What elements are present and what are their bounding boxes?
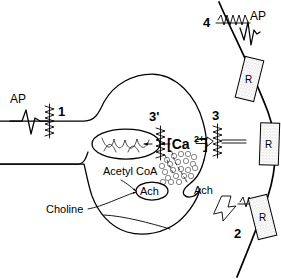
synapse-figure-svg: AP 1 4 AP 3' 3 [Ca 2+ ] Acetyl CoA Ach A… — [0, 0, 281, 279]
label-step-4: 4 — [203, 15, 211, 30]
label-calcium-close: ] — [203, 136, 208, 152]
label-calcium-open: [Ca — [167, 136, 190, 152]
label-step-2: 2 — [234, 226, 241, 241]
acetyl-coa-arrow — [121, 180, 136, 191]
sodium-channel-icon-4 — [216, 15, 250, 25]
label-receptor-2: R — [265, 139, 272, 150]
choline-arrow — [88, 192, 170, 229]
label-ach-release: Ach — [194, 184, 213, 196]
ap-postsynaptic-waveform — [240, 22, 260, 45]
synaptic-vesicle-cluster — [159, 151, 197, 184]
label-acetyl-coa: Acetyl CoA — [103, 165, 158, 177]
label-ap-postsynaptic: AP — [250, 9, 266, 23]
diffusion-arrow-icon — [214, 196, 236, 221]
label-step-1: 1 — [58, 104, 65, 119]
synapse-diagram: AP 1 4 AP 3' 3 [Ca 2+ ] Acetyl CoA Ach A… — [0, 0, 281, 279]
label-ach-vesicle-pool: Ach — [140, 185, 159, 197]
label-choline: Choline — [46, 203, 83, 215]
label-calcium-group: [Ca 2+ ] — [167, 134, 208, 152]
label-step-3: 3 — [212, 108, 219, 123]
label-ap-presynaptic: AP — [10, 92, 26, 106]
label-receptor-1: R — [245, 74, 252, 85]
label-receptor-3: R — [259, 212, 266, 223]
label-step-3-prime: 3' — [149, 109, 159, 124]
